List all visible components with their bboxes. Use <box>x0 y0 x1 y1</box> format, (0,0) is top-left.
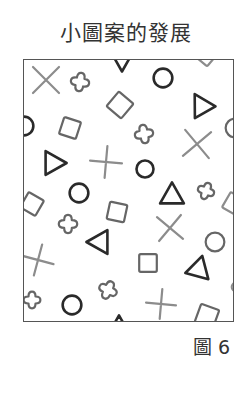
circle-shape <box>226 119 234 138</box>
square-shape <box>107 202 128 223</box>
circle-shape <box>206 233 225 252</box>
pattern-illustration <box>24 60 234 322</box>
clover-shape <box>133 123 154 144</box>
square-shape <box>222 192 234 216</box>
figure-caption: 圖 6 <box>193 332 230 359</box>
circle-shape <box>24 117 33 136</box>
triangle-shape <box>46 151 67 175</box>
square-shape <box>139 254 157 272</box>
plus-shape <box>24 240 58 279</box>
pattern-frame <box>23 59 234 322</box>
clover-shape <box>24 292 40 309</box>
triangle-shape <box>107 315 131 322</box>
triangle-shape <box>86 230 107 254</box>
clover-shape <box>69 71 90 92</box>
clover-shape <box>96 278 120 302</box>
plus-shape <box>145 288 178 321</box>
circle-shape <box>154 69 173 88</box>
cross-x-shape <box>33 67 59 93</box>
plus-shape <box>89 145 124 180</box>
square-shape <box>195 304 220 322</box>
circle-shape <box>70 184 89 203</box>
clover-shape <box>59 215 77 233</box>
triangle-shape <box>184 88 215 118</box>
figure-number: 6 <box>218 336 230 358</box>
square-shape <box>24 192 44 216</box>
page-title: 小圖案的發展 <box>0 16 252 46</box>
triangle-shape <box>109 60 135 72</box>
triangle-shape <box>160 182 184 203</box>
clover-shape <box>195 180 216 201</box>
square-shape <box>106 91 133 118</box>
circle-shape <box>63 296 82 315</box>
circle-shape <box>232 283 234 292</box>
cross-x-shape <box>183 130 211 158</box>
square-shape <box>194 60 219 66</box>
square-shape <box>59 117 81 139</box>
cross-x-shape <box>157 215 183 241</box>
triangle-shape <box>185 253 213 279</box>
circle-shape <box>137 161 154 178</box>
figure-label: 圖 <box>193 336 212 358</box>
